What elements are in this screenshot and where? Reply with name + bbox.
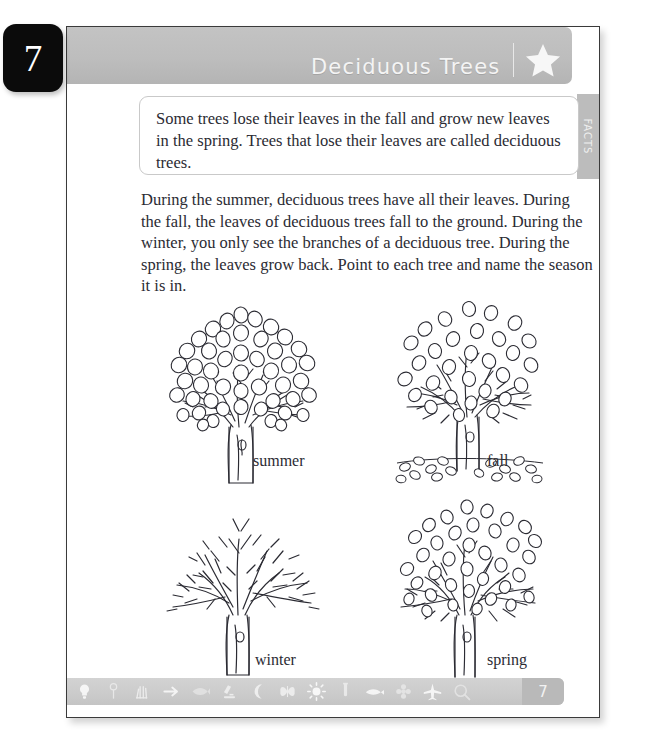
tree-cell-fall[interactable]: fall <box>369 295 594 490</box>
body-paragraph: During the summer, deciduous trees have … <box>141 189 593 297</box>
butterfly-icon <box>278 682 297 701</box>
microscope-icon <box>220 682 239 701</box>
footer-icon-strip <box>67 682 564 701</box>
tree-label-summer: summer <box>253 452 305 470</box>
magnifier-icon <box>452 682 471 701</box>
arrow-icon <box>162 682 181 701</box>
tree-illustration-winter <box>153 491 333 681</box>
header-divider <box>513 43 515 77</box>
moon-icon <box>249 682 268 701</box>
page-header-band: Deciduous Trees <box>67 27 572 84</box>
tree-label-fall: fall <box>487 452 508 470</box>
tree-label-spring: spring <box>487 651 527 669</box>
tree-label-winter: winter <box>255 651 296 669</box>
test-tube-icon <box>336 682 355 701</box>
tree-cell-winter[interactable]: winter <box>153 491 378 686</box>
hand-icon <box>133 682 152 701</box>
star-icon <box>524 42 562 78</box>
airplane-icon <box>423 682 442 701</box>
footer-page-number: 7 <box>522 678 564 705</box>
fish-icon <box>191 682 210 701</box>
tree-illustration-grid: summer <box>141 295 591 685</box>
flower-icon <box>394 682 413 701</box>
tree-illustration-fall <box>379 295 559 485</box>
tree-cell-spring[interactable]: spring <box>369 491 594 686</box>
tree-cell-summer[interactable]: summer <box>153 295 378 490</box>
chapter-number-badge: 7 <box>3 24 63 92</box>
whale-icon <box>365 682 384 701</box>
page-footer-band: 7 <box>67 678 564 705</box>
tree-illustration-spring <box>379 491 559 681</box>
facts-text: Some trees lose their leaves in the fall… <box>156 108 562 174</box>
page-title: Deciduous Trees <box>311 55 513 79</box>
facts-callout-box: Some trees lose their leaves in the fall… <box>139 96 579 175</box>
facts-tab: FACTS <box>577 94 599 179</box>
plant-icon <box>104 682 123 701</box>
lightbulb-icon <box>75 682 94 701</box>
sun-icon <box>307 682 326 701</box>
facts-tab-label: FACTS <box>583 119 594 155</box>
tree-illustration-summer <box>153 295 333 485</box>
worksheet-page: Deciduous Trees FACTS Some trees lose th… <box>66 26 600 718</box>
